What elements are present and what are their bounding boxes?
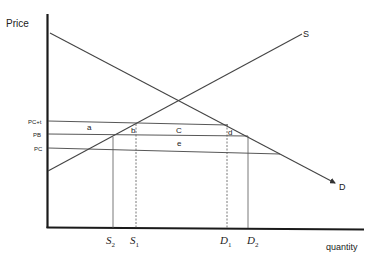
demand-curve [50,33,335,183]
price-line-pb [48,134,248,136]
price-line-pc [48,148,280,154]
svg-text:S1: S1 [130,234,140,249]
quantity-label-d2: D2 [246,234,259,249]
price-label-pb: PB [33,132,41,138]
area-label-b: b [131,126,136,135]
svg-text:D1: D1 [219,234,232,249]
price-line-pct [48,121,228,125]
svg-text:D2: D2 [246,234,259,249]
x-axis [47,228,365,230]
quantity-label-d1: D1 [219,234,232,249]
demand-curve-label: D [339,182,346,192]
supply-curve-label: S [303,29,309,39]
y-axis-label: Price [6,18,29,29]
area-label-a: a [87,123,92,132]
area-label-d: d [228,128,232,137]
x-axis-label: quantity [326,242,358,252]
area-label-c: C [176,126,182,135]
price-label-pc: PC [34,146,43,152]
area-label-e: e [177,139,182,148]
supply-demand-diagram: Price quantity D S PC+t PB PC a b C d e [0,0,382,262]
price-label-pct: PC+t [28,119,42,125]
supply-curve [48,34,302,171]
quantity-label-s2: S2 [106,234,116,249]
svg-text:S2: S2 [106,234,116,249]
quantity-label-s1: S1 [130,234,140,249]
